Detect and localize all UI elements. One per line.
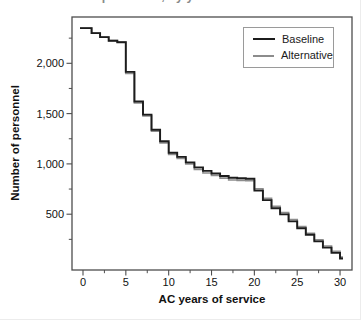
x-axis-title: AC years of service [159,293,266,305]
step-chart-figure: AC personnel, by years of service 051015… [0,0,361,320]
x-axis-tick-label: 30 [334,276,346,288]
x-axis-tick-label: 10 [163,276,175,288]
y-axis-title: Number of personnel [9,85,21,201]
x-axis-tick-label: 0 [80,276,86,288]
legend-alternative-label: Alternative [281,50,333,61]
legend: Baseline Alternative [243,27,334,68]
y-axis-tick-label: 500 [46,208,64,220]
x-axis-tick-label: 5 [123,276,129,288]
legend-alternative-line-swatch [253,55,274,57]
y-axis-tick-label: 2,000 [36,57,64,69]
x-axis-tick-label: 25 [291,276,303,288]
x-axis-tick-label: 15 [205,276,217,288]
legend-baseline-line-swatch [253,38,275,40]
y-axis-tick-label: 1,000 [36,158,64,170]
legend-item-alternative: Alternative [253,50,333,61]
legend-item-baseline: Baseline [253,34,333,45]
x-axis-tick-label: 20 [248,276,260,288]
y-axis-tick-label: 1,500 [36,108,64,120]
legend-baseline-label: Baseline [282,34,324,45]
